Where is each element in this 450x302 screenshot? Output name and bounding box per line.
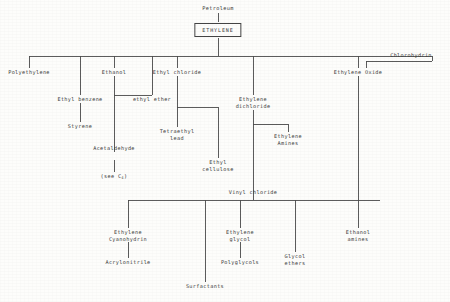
diagram-page: Petroleum ETHYLENE Polyethylene Ethanol … [0,0,450,302]
ethylene-amines-line2: Amines [278,140,299,146]
node-acrylonitrile: Acrylonitrile [105,259,150,266]
node-ethylene-amines: EthyleneAmines [274,133,302,146]
node-ethanol-amines: Ethanolamines [346,229,370,242]
ethyl-cellulose-line2: cellulose [202,166,233,172]
node-ethylene-oxide: Ethylene Oxide [334,69,383,76]
tetraethyl-lead-line1: Tetraethyl [160,128,195,134]
see-c4-suffix: ) [124,173,127,179]
node-ethylene-glycol: Ethyleneglycol [226,229,254,242]
node-polyethylene: Polyethylene [8,69,50,76]
node-ethylene-cyanohydrin: EthyleneCyanohydrin [109,229,147,242]
node-ethyl-benzene: Ethyl benzene [57,96,102,103]
node-petroleum: Petroleum [202,5,233,12]
ethyl-cellulose-line1: Ethyl [209,159,226,165]
node-chlorohydrin: Chlorohydrin [390,52,432,59]
ethylene-dichloride-line2: dichloride [236,103,271,109]
see-c4-prefix: (see C [101,173,122,179]
tetraethyl-lead-line2: lead [170,135,184,141]
glycol-ethers-line1: Glycol [285,253,306,259]
node-styrene: Styrene [68,123,92,130]
node-ethanol: Ethanol [102,69,126,76]
ethanol-amines-line2: amines [348,236,369,242]
ethanol-amines-line1: Ethanol [346,229,370,235]
node-polyglycols: Polyglycols [221,259,259,266]
node-see-c4: (see C4) [101,173,128,181]
node-acetaldehyde: Acetaldehyde [93,145,135,152]
ethylene-dichloride-line1: Ethylene [239,96,267,102]
ethylene-glycol-line1: Ethylene [226,229,254,235]
node-surfactants: Surfactants [186,283,224,290]
ethylene-glycol-line2: glycol [230,236,251,242]
ethylene-cyanohydrin-line2: Cyanohydrin [109,236,147,242]
node-glycol-ethers: Glycolethers [285,253,306,266]
node-ethyl-ether: ethyl ether [133,96,171,103]
flow-connector-lines [0,0,450,302]
node-ethyl-cellulose: Ethylcellulose [202,159,233,172]
node-tetraethyl-lead: Tetraethyllead [160,128,195,141]
node-ethyl-chloride: Ethyl chloride [153,69,202,76]
ethylene-amines-line1: Ethylene [274,133,302,139]
glycol-ethers-line2: ethers [285,260,306,266]
node-ethylene-box: ETHYLENE [194,23,241,37]
node-vinyl-chloride: Vinyl chloride [229,189,278,196]
ethylene-cyanohydrin-line1: Ethylene [114,229,142,235]
node-ethylene-dichloride: Ethylenedichloride [236,96,271,109]
